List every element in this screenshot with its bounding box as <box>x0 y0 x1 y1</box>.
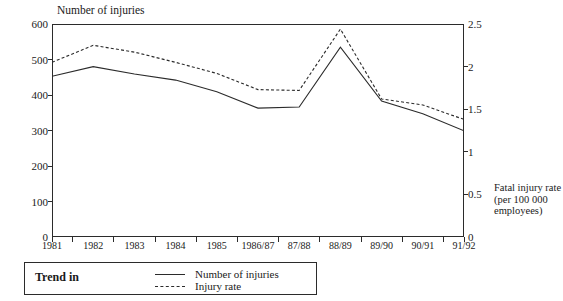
legend-swatch-solid-line <box>155 274 185 275</box>
x-axis-tick-mark <box>72 237 73 242</box>
right-axis-title: Fatal injury rate (per 100 000 employees… <box>494 182 562 217</box>
x-axis-tick-mark <box>402 237 403 242</box>
left-axis-tick-label: 200 <box>2 160 48 172</box>
series-line-injury-rate <box>52 29 464 119</box>
left-axis-tick-label: 100 <box>2 196 48 208</box>
legend-label-number-of-injuries: Number of injuries <box>195 268 279 280</box>
x-axis-tick-mark <box>196 237 197 242</box>
x-axis-tick-label: 90/91 <box>411 240 434 251</box>
right-axis-tick-mark <box>464 66 468 67</box>
x-axis-tick-mark <box>52 237 53 242</box>
x-axis-tick-label: 89/90 <box>370 240 393 251</box>
plot-lines <box>52 24 464 237</box>
x-axis-tick-mark <box>237 237 238 242</box>
left-axis-tick-label: 300 <box>2 125 48 137</box>
right-axis-tick-label: 2.5 <box>468 18 508 30</box>
left-axis-tick-mark <box>48 201 52 202</box>
x-axis-tick-label: 1986/87 <box>242 240 275 251</box>
x-axis-tick-mark <box>113 237 114 242</box>
x-axis-tick-label: 1984 <box>166 240 186 251</box>
left-axis-tick-label: 600 <box>2 18 48 30</box>
x-axis-tick-mark <box>155 237 156 242</box>
legend-box: Trend in Number of injuries Injury rate <box>24 262 317 295</box>
x-axis-tick-mark <box>278 237 279 242</box>
x-axis-tick-mark <box>361 237 362 242</box>
legend-title: Trend in <box>35 270 79 285</box>
left-axis-tick-mark <box>48 59 52 60</box>
x-axis-tick-mark <box>464 237 465 242</box>
right-axis-tick-mark <box>464 109 468 110</box>
x-axis-tick-label: 1983 <box>124 240 144 251</box>
x-axis-tick-label: 87/88 <box>288 240 311 251</box>
x-axis-tick-label: 88/89 <box>329 240 352 251</box>
left-axis-tick-mark <box>48 166 52 167</box>
left-axis-tick-mark <box>48 130 52 131</box>
legend-swatch-dashed-line <box>155 286 185 287</box>
right-axis-tick-mark <box>464 151 468 152</box>
x-axis-tick-label: 1982 <box>83 240 103 251</box>
left-axis-ticks: 0100200300400500600 <box>0 0 48 301</box>
right-axis-tick-label: 2 <box>468 61 508 73</box>
left-axis-title: Number of injuries <box>57 4 145 16</box>
x-axis-tick-mark <box>319 237 320 242</box>
left-axis-tick-label: 500 <box>2 54 48 66</box>
right-axis-ticks: 00.511.522.5 <box>468 0 508 301</box>
right-axis-tick-label: 1.5 <box>468 103 508 115</box>
right-axis-tick-label: 1 <box>468 146 508 158</box>
legend-label-injury-rate: Injury rate <box>195 280 241 292</box>
right-axis-tick-mark <box>464 194 468 195</box>
series-line-number-of-injuries <box>52 47 464 131</box>
x-axis-tick-label: 1985 <box>207 240 227 251</box>
x-axis-tick-mark <box>443 237 444 242</box>
left-axis-tick-label: 400 <box>2 89 48 101</box>
chart-figure: Number of injuries 0100200300400500600 0… <box>0 0 563 301</box>
left-axis-tick-mark <box>48 95 52 96</box>
